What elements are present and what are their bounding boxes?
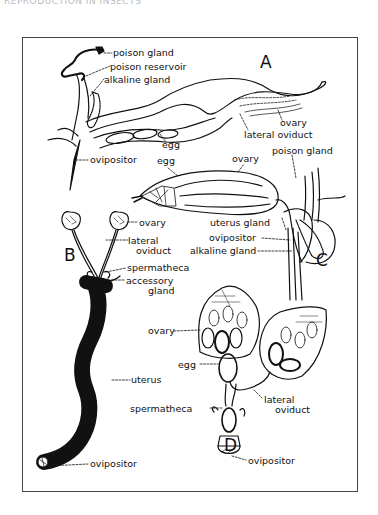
label-c-poison-gland: poison gland	[272, 146, 333, 156]
label-b-ovary: ovary	[139, 218, 166, 228]
label-a-poison-reservoir: poison reservoir	[110, 62, 187, 72]
label-b-lateral-oviduct-2: oviduct	[136, 246, 171, 256]
label-d-lateral-oviduct-2: oviduct	[275, 405, 310, 415]
label-c-ovary: ovary	[232, 154, 259, 164]
label-a-ovipositor: ovipositor	[90, 155, 137, 165]
label-b-spermatheca: spermatheca	[127, 263, 189, 273]
panel-d-drawing	[199, 286, 327, 453]
label-a-alkaline-gland: alkaline gland	[104, 75, 170, 85]
label-a-ovary: ovary	[280, 118, 307, 128]
label-d-spermatheca: spermatheca	[130, 404, 192, 414]
label-b-uterus: uterus	[131, 375, 161, 385]
panel-c-letter: C	[316, 250, 328, 270]
label-a-lateral-oviduct: lateral oviduct	[244, 130, 313, 140]
panel-b-drawing	[38, 212, 128, 467]
label-d-ovary: ovary	[148, 326, 175, 336]
label-b-ovipositor: ovipositor	[90, 459, 137, 469]
label-b-accessory-gland-2: gland	[148, 286, 175, 296]
panel-d-letter: D	[224, 435, 237, 455]
label-c-ovipositor: ovipositor	[209, 233, 256, 243]
panel-b-letter: B	[64, 245, 76, 265]
label-a-poison-gland: poison gland	[113, 48, 174, 58]
panel-a-letter: A	[260, 52, 272, 72]
label-a-egg: egg	[162, 140, 180, 150]
label-d-egg: egg	[178, 360, 196, 370]
label-c-alkaline-gland: alkaline gland	[190, 246, 256, 256]
label-c-egg: egg	[157, 156, 175, 166]
label-d-ovipositor: ovipositor	[248, 456, 295, 466]
label-c-uterus-gland: uterus gland	[210, 218, 270, 228]
